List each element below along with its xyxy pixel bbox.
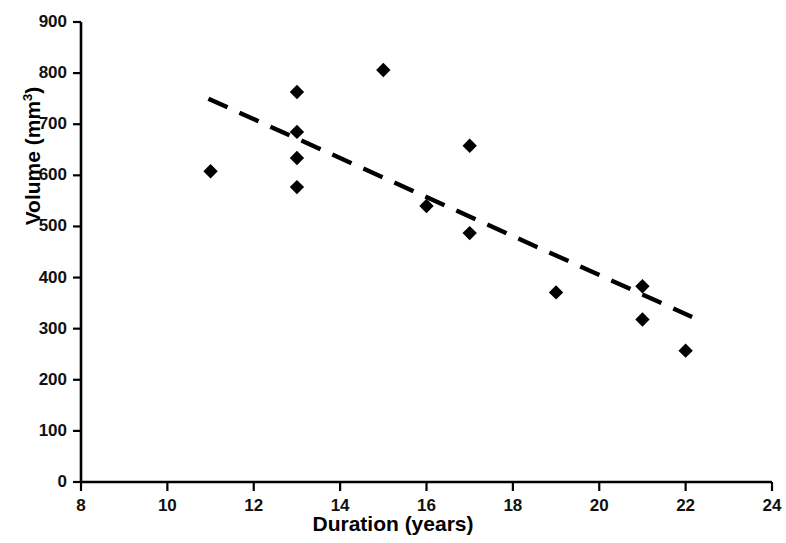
data-point-marker: [290, 125, 304, 139]
x-axis-title: Duration (years): [0, 512, 786, 536]
y-axis-title: Volume (mm3): [21, 46, 45, 266]
y-tick-label: 900: [0, 12, 67, 32]
scatter-chart-figure: 0100200300400500600700800900810121416182…: [0, 0, 786, 543]
plot-area: [0, 0, 786, 543]
y-tick-label: 100: [0, 421, 67, 441]
y-axis-title-text: Volume (mm: [21, 101, 44, 225]
data-point-marker: [290, 180, 304, 194]
data-point-marker: [635, 312, 649, 326]
y-tick-label: 0: [0, 472, 67, 492]
y-tick-label: 400: [0, 268, 67, 288]
y-axis-title-tail: ): [21, 87, 44, 94]
data-point-marker: [462, 226, 476, 240]
data-point-marker: [635, 279, 649, 293]
data-point-marker: [462, 138, 476, 152]
axes: [73, 22, 772, 491]
data-points: [203, 63, 692, 358]
y-tick-label: 300: [0, 319, 67, 339]
data-point-marker: [203, 164, 217, 178]
data-point-marker: [678, 343, 692, 357]
data-point-marker: [290, 85, 304, 99]
data-point-marker: [549, 285, 563, 299]
data-point-marker: [290, 151, 304, 165]
trend-line: [208, 99, 692, 317]
data-point-marker: [376, 63, 390, 77]
y-axis-title-exponent: 3: [20, 94, 35, 101]
y-tick-label: 200: [0, 370, 67, 390]
